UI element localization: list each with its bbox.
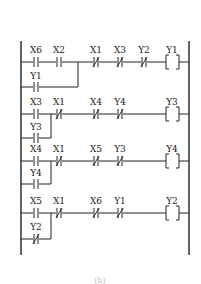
contact-no-icon xyxy=(34,208,38,218)
contact-label: X3 xyxy=(114,45,126,55)
contact-label: X5 xyxy=(30,196,42,206)
coil-icon xyxy=(166,154,179,168)
contact-label: X6 xyxy=(90,196,102,206)
branch-contact-label: Y3 xyxy=(29,122,42,132)
contact-label: X4 xyxy=(30,144,42,154)
contact-nc-icon xyxy=(117,109,123,119)
contact-no-icon xyxy=(34,179,38,189)
contact-no-icon xyxy=(34,156,38,166)
contact-label: X5 xyxy=(90,144,102,154)
contact-nc-icon xyxy=(141,57,147,67)
rung-4: X5 X1 X6 Y1 Y2 Y2 xyxy=(21,196,189,244)
rung-1: X6 X2 X1 X3 Y2 Y1 Y1 xyxy=(21,45,189,92)
contact-label: X3 xyxy=(30,97,42,107)
contact-label: Y1 xyxy=(113,196,126,206)
coil-label: Y1 xyxy=(165,45,178,55)
contact-label: X2 xyxy=(53,45,65,55)
contact-no-icon xyxy=(34,82,38,92)
contact-label: X4 xyxy=(90,97,102,107)
contact-nc-icon xyxy=(117,57,123,67)
contact-no-icon xyxy=(57,57,61,67)
contact-nc-icon xyxy=(56,156,62,166)
contact-label: Y2 xyxy=(137,45,150,55)
contact-nc-icon xyxy=(56,109,62,119)
figure-caption: (b) xyxy=(94,276,105,284)
coil-label: Y3 xyxy=(165,97,178,107)
contact-label: X1 xyxy=(53,97,65,107)
contact-no-icon xyxy=(34,133,38,143)
contact-label: X1 xyxy=(90,45,102,55)
coil-label: Y4 xyxy=(165,144,178,154)
contact-label: Y4 xyxy=(113,97,126,107)
contact-nc-icon xyxy=(93,109,99,119)
branch-contact-label: Y4 xyxy=(29,168,42,178)
contact-label: X1 xyxy=(53,196,65,206)
contact-nc-icon xyxy=(93,156,99,166)
contact-nc-icon xyxy=(56,208,62,218)
contact-nc-icon xyxy=(33,234,39,244)
contact-nc-icon xyxy=(93,57,99,67)
coil-label: Y2 xyxy=(165,196,178,206)
contact-nc-icon xyxy=(117,208,123,218)
rung-3: X4 X1 X5 Y3 Y4 Y4 xyxy=(21,144,189,189)
coil-icon xyxy=(166,55,179,69)
contact-label: X6 xyxy=(30,45,42,55)
branch-contact-label: Y1 xyxy=(29,71,42,81)
contact-nc-icon xyxy=(117,156,123,166)
contact-no-icon xyxy=(34,57,38,67)
contact-no-icon xyxy=(34,109,38,119)
coil-icon xyxy=(166,107,179,121)
branch-contact-label: Y2 xyxy=(29,222,42,232)
contact-label: Y3 xyxy=(113,144,126,154)
ladder-diagram: X6 X2 X1 X3 Y2 Y1 Y1 X3 X1 X4 Y4 Y3 Y3 xyxy=(0,0,201,284)
coil-icon xyxy=(166,206,179,220)
contact-label: X1 xyxy=(53,144,65,154)
rung-2: X3 X1 X4 Y4 Y3 Y3 xyxy=(21,97,189,143)
contact-nc-icon xyxy=(93,208,99,218)
